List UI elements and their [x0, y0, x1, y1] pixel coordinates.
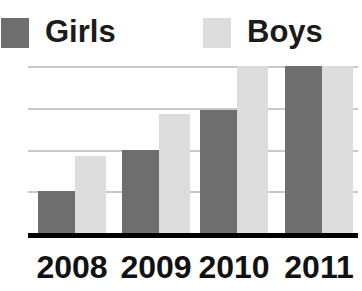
- x-tick-label-2008: 2008: [32, 246, 112, 290]
- plot-area: [28, 66, 358, 233]
- legend-swatch-boys-icon: [203, 18, 231, 48]
- x-tick-label-2009: 2009: [116, 246, 196, 290]
- bar-girls-2010: [200, 110, 237, 233]
- x-tick-label-2011: 2011: [279, 246, 359, 290]
- legend-label-girls: Girls: [45, 10, 116, 56]
- bar-girls-2009: [122, 150, 159, 234]
- x-axis-line: [28, 233, 358, 238]
- legend-swatch-girls-icon: [1, 18, 29, 48]
- legend-label-boys: Boys: [247, 10, 323, 56]
- bar-chart: Girls Boys 2008200920102011: [0, 0, 362, 291]
- bar-girls-2008: [38, 191, 75, 233]
- bar-boys-2008: [75, 156, 106, 233]
- chart-legend: Girls Boys: [0, 10, 362, 56]
- bar-boys-2011: [322, 66, 353, 233]
- x-axis-tick-labels: 2008200920102011: [0, 246, 362, 290]
- x-tick-label-2010: 2010: [194, 246, 274, 290]
- bar-boys-2010: [237, 66, 268, 233]
- bar-groups: [28, 66, 358, 233]
- bar-boys-2009: [159, 114, 190, 233]
- bar-girls-2011: [285, 66, 322, 233]
